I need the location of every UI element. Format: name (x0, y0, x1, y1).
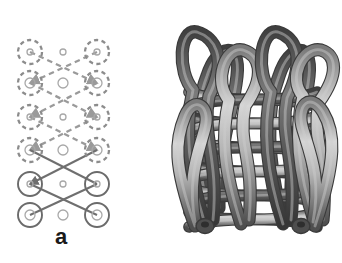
node-inner-ring (58, 145, 68, 155)
lattice-node (60, 49, 66, 55)
node-inner-ring (58, 210, 68, 220)
node-inner-ring (60, 49, 66, 55)
node-inner-ring (60, 181, 66, 187)
woven-tube-3d-svg (165, 0, 342, 263)
strand-end-cap-hole (201, 221, 209, 227)
node-inner-ring (58, 78, 68, 88)
panel-a-schematic-diagram: a (0, 0, 165, 263)
figure-container: a b (0, 0, 342, 263)
lattice-node (58, 78, 68, 88)
lattice-node (58, 210, 68, 220)
schematic-weave-lattice-svg (0, 0, 165, 263)
strand-end-cap-hole (297, 221, 305, 227)
lattice-node (58, 145, 68, 155)
node-inner-ring (60, 114, 66, 120)
lattice-node (60, 114, 66, 120)
lattice-node (60, 181, 66, 187)
panel-a-label: a (55, 226, 67, 248)
panel-b-3d-render: b (165, 0, 342, 263)
